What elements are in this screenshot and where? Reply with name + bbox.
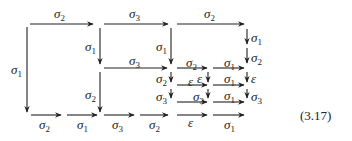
arrow-label-right-v4: σ3: [251, 90, 262, 106]
arrow-label-mid-v1: σ1: [85, 40, 96, 56]
arrow-label-mid-v2: σ1: [156, 40, 167, 56]
arrow-label-row2-3: σ1: [224, 56, 235, 72]
arrow-label-row4-2: σ1: [224, 89, 235, 105]
arrow-label-top-3: σ2: [204, 7, 215, 23]
arrow-label-bot-5: ε: [188, 116, 193, 129]
arrow-label-right-v3: ε: [251, 72, 256, 85]
arrow-label-bot-3: σ3: [112, 118, 123, 134]
arrow-label-bot-2: σ1: [77, 118, 88, 134]
arrow-label-row3-2: σ1: [224, 72, 235, 88]
arrow-label-c208-v2: σ3: [193, 90, 204, 106]
arrow-label-top-1: σ2: [54, 7, 65, 23]
arrow-label-left-v: σ1: [11, 63, 22, 79]
arrow-label-bot-4: σ2: [149, 118, 160, 134]
arrow-label-row2-2: σ2: [186, 56, 197, 72]
arrow-label-bot-6: σ1: [224, 118, 235, 134]
arrow-label-c208-v1: ε: [197, 72, 202, 85]
equation-number: (3.17): [300, 108, 331, 124]
arrow-label-right-v1: σ1: [251, 31, 262, 47]
arrow-label-right-v2: σ2: [251, 51, 262, 67]
arrow-label-mid-v3: σ2: [85, 88, 96, 104]
arrow-label-row3-1: ε: [188, 75, 193, 88]
arrow-label-top-2: σ3: [129, 7, 140, 23]
arrow-label-row2-1: σ3: [129, 54, 140, 70]
arrow-label-bot-1: σ2: [39, 118, 50, 134]
arrow-label-c171-v1: σ2: [156, 72, 167, 88]
arrow-label-c171-v2: σ3: [156, 90, 167, 106]
